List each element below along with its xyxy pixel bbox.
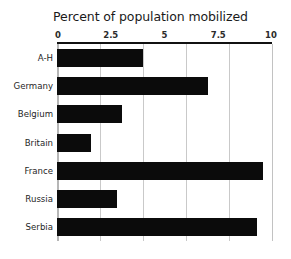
x-tick-label: 0 [55,30,61,40]
bar [57,134,91,152]
category-label-belgium: Belgium [0,109,53,119]
category-label-france: France [0,166,53,176]
category-label-russia: Russia [0,194,53,204]
x-tick-label: 5 [162,30,168,40]
plot-area [57,44,272,241]
category-label-a-h: A-H [0,53,53,63]
bar [57,162,263,180]
gridline [272,44,273,241]
x-axis-tick-labels: 02.557.510 [0,30,291,42]
chart-title: Percent of population mobilized [0,9,291,24]
x-tick-label: 10 [265,30,277,40]
bars-layer [57,44,272,241]
category-label-germany: Germany [0,81,53,91]
bar [57,77,208,95]
category-axis-labels: A-HGermanyBelgiumBritainFranceRussiaSerb… [0,44,53,241]
bar [57,218,257,236]
bar [57,105,122,123]
bar [57,190,117,208]
bar-chart-figure: Percent of population mobilized 02.557.5… [0,0,291,259]
x-tick-label: 7.5 [211,30,226,40]
category-label-serbia: Serbia [0,222,53,232]
x-tick-label: 2.5 [103,30,118,40]
category-label-britain: Britain [0,138,53,148]
bar [57,49,143,67]
